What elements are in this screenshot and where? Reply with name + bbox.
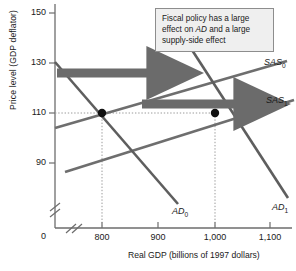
- note-line-1: Fiscal policy has a large: [162, 14, 249, 23]
- annotation-note: Fiscal policy has a large effect on AD a…: [155, 8, 274, 52]
- origin-label: 0: [18, 231, 46, 241]
- y-axis-title: Price level (GDP deflator): [8, 0, 18, 120]
- x-tick-marks: [102, 222, 270, 228]
- droplines: [55, 113, 215, 228]
- x-tick-label-800: 800: [82, 232, 122, 242]
- x-tick-label-900: 900: [138, 232, 178, 242]
- curve-label-ad1: AD1: [272, 202, 288, 214]
- x-tick-label-1100: 1,100: [250, 232, 290, 242]
- y-tick-marks: [49, 13, 55, 163]
- x-axis-title: Real GDP (billions of 1997 dollars): [128, 250, 260, 260]
- y-tick-label-130: 130: [18, 57, 46, 67]
- y-tick-label-150: 150: [18, 7, 46, 17]
- curve-label-sas1: SAS1: [266, 95, 288, 107]
- y-tick-label-90: 90: [18, 157, 46, 167]
- chart-figure: 150 130 110 90 0 800 900 1,000 1,100 Pri…: [0, 0, 296, 271]
- note-line-3: supply-side effect: [162, 36, 226, 45]
- note-line-2-pre: effect on: [162, 25, 196, 34]
- note-emphasis-ad: AD: [196, 25, 207, 34]
- y-tick-label-110: 110: [18, 107, 46, 117]
- curve-ad0: [55, 62, 178, 204]
- curve-label-ad0: AD0: [172, 206, 188, 218]
- note-line-2-post: and a large: [207, 25, 250, 34]
- curve-label-sas0: SAS0: [264, 57, 286, 69]
- initial-equilibrium-dot: [98, 109, 106, 117]
- new-equilibrium-dot: [211, 109, 219, 117]
- x-tick-label-1000: 1,000: [195, 232, 235, 242]
